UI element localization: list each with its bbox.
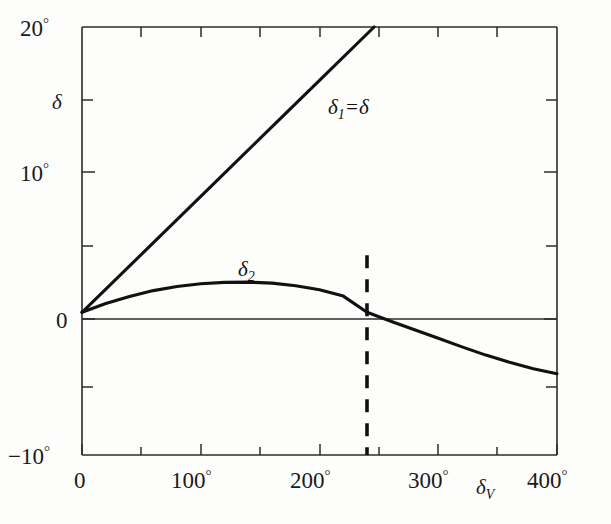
x-tick-label-300: 300° [408,467,449,493]
figure-canvas: 20° 10° 0 −10° δ 0 100° 200° 300° 400° δ… [0,0,611,524]
y-tick-label-20: 20° [20,15,49,41]
x-tick-label-400: 400° [527,467,568,493]
x-tick-label-200: 200° [290,467,331,493]
x-tick-label-0: 0 [74,468,86,493]
y-axis-label: δ [52,90,63,114]
y-tick-label-0: 0 [56,308,68,333]
x-tick-label-100: 100° [171,467,212,493]
x-axis-label: δV [476,475,496,502]
y-tick-label-10: 10° [20,160,49,186]
curve-label-delta2: δ2 [238,257,255,284]
curve-delta2 [82,282,557,374]
y-tick-label-neg10: −10° [8,443,50,469]
curve-delta1 [82,27,374,312]
chart-svg: 20° 10° 0 −10° δ 0 100° 200° 300° 400° δ… [0,0,611,524]
curve-label-delta1: δ1=δ [328,95,370,122]
